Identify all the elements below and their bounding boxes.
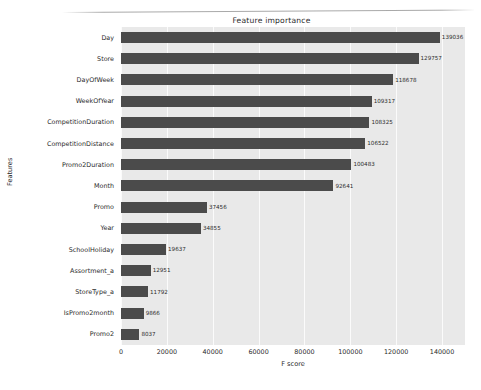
bar-value-label: 8037 <box>141 331 155 338</box>
bar <box>121 308 144 319</box>
bar <box>121 53 419 64</box>
bar-value-label: 37456 <box>209 204 227 211</box>
plot-area: 1390361297571186781093171083251065221004… <box>121 27 465 345</box>
bar-row: 100483 <box>121 154 465 175</box>
y-tick-year: Year <box>100 225 114 231</box>
y-tick-schoolholiday: SchoolHoliday <box>69 246 114 252</box>
x-tick-7: 140000 <box>430 348 454 356</box>
bar-series: 1390361297571186781093171083251065221004… <box>121 27 465 345</box>
y-tick-promo2duration: Promo2Duration <box>62 162 114 168</box>
x-tick-6: 120000 <box>384 348 408 356</box>
x-tick-3: 60000 <box>248 348 268 356</box>
bar-value-label: 19637 <box>168 246 186 253</box>
bar-value-label: 139036 <box>442 34 463 41</box>
bar-row: 92641 <box>121 175 465 196</box>
bar-value-label: 100483 <box>353 161 374 168</box>
x-tick-4: 80000 <box>294 348 314 356</box>
bar <box>121 202 207 213</box>
bar-row: 106522 <box>121 133 465 154</box>
scan-artifact-line <box>62 9 474 13</box>
bar-value-label: 92641 <box>335 183 353 190</box>
bar <box>121 117 369 128</box>
bar-value-label: 12951 <box>153 267 171 274</box>
bar-row: 37456 <box>121 197 465 218</box>
y-tick-competitionduration: CompetitionDuration <box>47 119 114 125</box>
bar <box>121 96 372 107</box>
y-tick-assortment_a: Assortment_a <box>70 268 114 274</box>
bar-row: 11792 <box>121 281 465 302</box>
bar-row: 8037 <box>121 324 465 345</box>
bar-value-label: 118678 <box>395 77 416 84</box>
bar-row: 34855 <box>121 218 465 239</box>
bar-row: 9866 <box>121 303 465 324</box>
bar-value-label: 34855 <box>203 225 221 232</box>
y-tick-month: Month <box>94 183 114 189</box>
y-tick-ispromo2month: IsPromo2month <box>64 310 114 316</box>
bar-row: 19637 <box>121 239 465 260</box>
x-tick-5: 100000 <box>338 348 362 356</box>
y-tick-store: Store <box>97 56 114 62</box>
y-tick-promo: Promo <box>94 204 114 210</box>
y-tick-promo2: Promo2 <box>90 331 114 337</box>
x-tick-1: 20000 <box>157 348 177 356</box>
bar <box>121 159 351 170</box>
bar-row: 12951 <box>121 260 465 281</box>
bar <box>121 329 139 340</box>
bar-value-label: 129757 <box>421 55 442 62</box>
y-tick-day: Day <box>101 34 114 40</box>
x-axis-label: F score <box>121 360 465 368</box>
y-tick-dayofweek: DayOfWeek <box>77 77 114 83</box>
x-tick-2: 40000 <box>203 348 223 356</box>
x-tick-0: 0 <box>119 348 123 356</box>
bar-value-label: 106522 <box>367 140 388 147</box>
bar-value-label: 11792 <box>150 289 168 296</box>
bar <box>121 138 365 149</box>
bar <box>121 32 440 43</box>
y-tick-competitiondistance: CompetitionDistance <box>47 140 114 146</box>
bar-row: 139036 <box>121 27 465 48</box>
bar-value-label: 108325 <box>371 119 392 126</box>
bar <box>121 265 151 276</box>
bar <box>121 244 166 255</box>
bar <box>121 286 148 297</box>
bar-value-label: 9866 <box>146 310 160 317</box>
y-axis-label: Features <box>6 158 14 186</box>
bar-row: 118678 <box>121 69 465 90</box>
bar <box>121 223 201 234</box>
bar-row: 129757 <box>121 48 465 69</box>
y-tick-storetype_a: StoreType_a <box>75 289 114 295</box>
feature-importance-chart: Feature importance 139036129757118678109… <box>0 0 481 390</box>
bar-row: 108325 <box>121 112 465 133</box>
bar <box>121 74 393 85</box>
bar <box>121 180 333 191</box>
y-axis-tick-labels: DayStoreDayOfWeekWeekOfYearCompetitionDu… <box>0 27 118 345</box>
bar-row: 109317 <box>121 91 465 112</box>
chart-title: Feature importance <box>0 16 481 25</box>
y-tick-weekofyear: WeekOfYear <box>76 98 114 104</box>
bar-value-label: 109317 <box>374 98 395 105</box>
